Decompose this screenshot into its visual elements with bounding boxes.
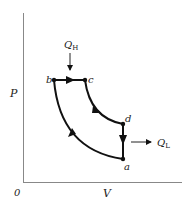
arrow-da-icon (119, 135, 127, 145)
process-cd (85, 80, 123, 124)
heat-in-label: QH (64, 39, 78, 52)
arrow-cd-icon (92, 106, 101, 113)
origin-label: 0 (14, 187, 21, 198)
x-axis-label: V (103, 187, 112, 200)
cycle (54, 80, 123, 159)
label-d: d (125, 113, 131, 124)
label-a: a (124, 161, 130, 172)
heat-out-label: QL (157, 137, 170, 150)
y-axis-label: P (9, 87, 18, 100)
label-c: c (88, 74, 94, 85)
pv-diagram: P V 0 b c d a QH QL (0, 0, 187, 202)
heat-out: QL (131, 137, 170, 150)
state-points (52, 78, 125, 161)
arrow-bc-icon (66, 76, 75, 84)
point-b (52, 78, 56, 82)
heat-in: QH (64, 39, 78, 70)
point-c (83, 78, 87, 82)
label-b: b (46, 74, 52, 85)
axes (23, 13, 182, 183)
